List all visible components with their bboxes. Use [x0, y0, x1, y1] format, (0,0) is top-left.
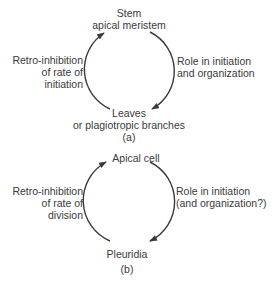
edge-label-line: division [12, 209, 83, 221]
node-label-line: or plagiotropic branches [73, 119, 185, 131]
caption-a: (a) [73, 131, 185, 143]
node-label-line: apical meristem [92, 19, 166, 31]
arc-a-right [150, 32, 174, 109]
node-label-line: Stem [92, 7, 166, 19]
node-apical-cell: Apical cell [112, 152, 159, 164]
edge-label-role-b: Role in initiation (and organization?) [176, 185, 266, 209]
edge-label-line: and organization [177, 67, 255, 79]
node-pleuridia: Pleuridia (b) [107, 248, 148, 275]
arc-a-left [84, 33, 110, 109]
edge-label-line: Role in initiation [176, 185, 266, 197]
caption-b: (b) [107, 263, 148, 275]
edge-label-line: of rate of [12, 66, 83, 78]
edge-label-role-a: Role in initiation and organization [177, 55, 255, 79]
edge-label-line: Retro-inhibition [12, 185, 83, 197]
edge-label-retro-inhibition-b: Retro-inhibition of rate of division [12, 185, 83, 221]
arc-b-left [83, 162, 110, 241]
edge-label-line: initiation [12, 78, 83, 90]
node-leaves: Leaves or plagiotropic branches (a) [73, 107, 185, 143]
edge-label-retro-inhibition-a: Retro-inhibition of rate of initiation [12, 54, 83, 90]
edge-label-line: Role in initiation [177, 55, 255, 67]
arc-b-right [150, 162, 175, 241]
edge-label-line: Retro-inhibition [12, 54, 83, 66]
cycle-arrows [0, 0, 275, 289]
node-label-line: Apical cell [112, 152, 159, 164]
edge-label-line: of rate of [12, 197, 83, 209]
node-stem-apical-meristem: Stem apical meristem [92, 7, 166, 31]
edge-label-line: (and organization?) [176, 197, 266, 209]
node-label-line: Pleuridia [107, 248, 148, 260]
node-label-line: Leaves [73, 107, 185, 119]
